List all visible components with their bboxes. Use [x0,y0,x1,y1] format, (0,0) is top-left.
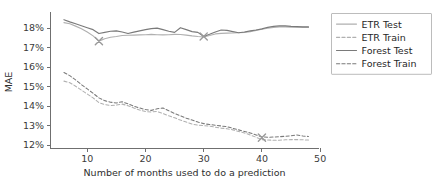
chart-legend: ETR TestETR TrainForest TestForest Train [332,14,432,75]
chart-figure: 12%13%14%15%16%17%18%1020304050 Number o… [0,0,437,181]
y-tick-label: 14% [23,100,44,111]
x-tick-label: 30 [198,153,210,164]
y-tick-label: 17% [23,42,44,53]
y-tick-label: 15% [23,81,44,92]
x-tick-label: 40 [256,153,268,164]
y-tick-label: 12% [23,139,44,150]
x-tick-label: 20 [139,153,151,164]
y-tick-label: 18% [23,22,44,33]
y-axis-title: MAE [3,72,14,93]
x-tick-label: 50 [314,153,326,164]
x-tick-label: 10 [81,153,93,164]
mae-vs-months-line-chart: 12%13%14%15%16%17%18%1020304050 Number o… [0,0,437,181]
x-axis-title: Number of months used to do a prediction [84,167,286,178]
y-tick-label: 13% [23,120,44,131]
legend-label: ETR Test [362,19,402,30]
legend-label: Forest Test [362,45,413,56]
legend-label: Forest Train [362,58,417,69]
y-tick-label: 16% [23,61,44,72]
legend-label: ETR Train [362,32,406,43]
